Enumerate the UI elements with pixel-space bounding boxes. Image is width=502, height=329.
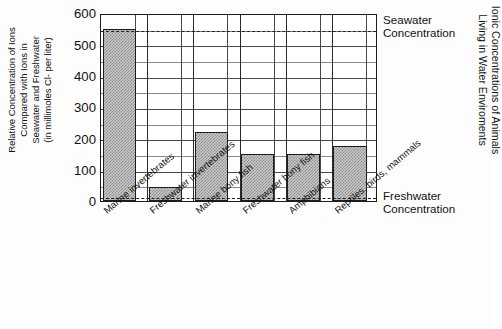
y-tick-label: 200	[74, 133, 96, 146]
y-tick-label: 100	[74, 164, 96, 177]
y-tick-label: 500	[74, 39, 96, 52]
x-axis-category-labels: Marine invertebratesFreshwater invertebr…	[0, 202, 492, 329]
bar	[103, 29, 136, 201]
chart-title: Ionic Concentrations of Animals Living i…	[466, 0, 502, 180]
y-tick-label: 400	[74, 70, 96, 83]
y-tick-label: 300	[74, 101, 96, 114]
seawater-concentration-label: Seawater Concentration	[383, 14, 455, 40]
y-tick-label: 600	[74, 7, 96, 20]
reference-line	[101, 31, 376, 32]
reference-line	[101, 198, 376, 199]
